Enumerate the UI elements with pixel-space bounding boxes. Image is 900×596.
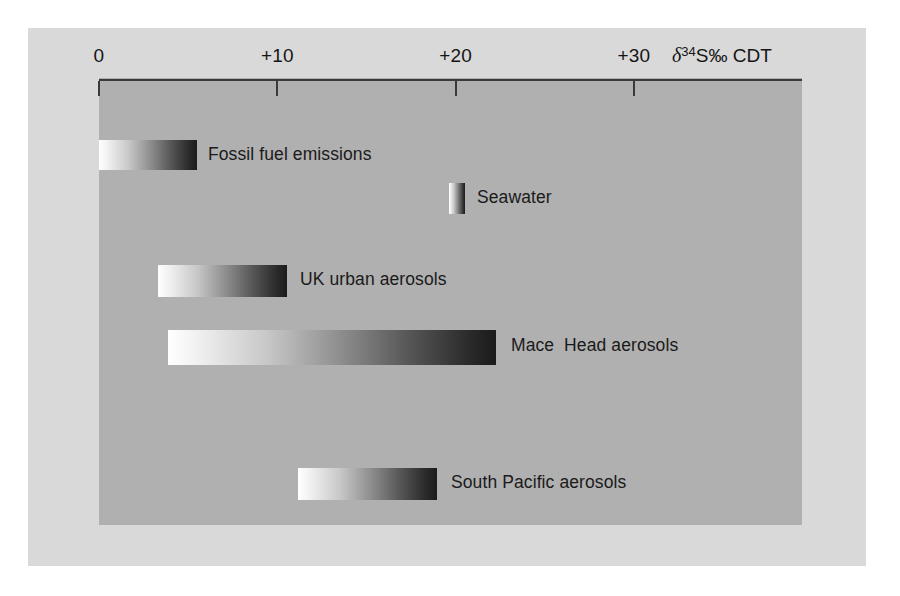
- delta-superscript: 34: [681, 44, 695, 59]
- bar-fossil-fuel-emissions: [99, 140, 197, 170]
- bar-label-fossil-fuel-emissions: Fossil fuel emissions: [208, 144, 372, 165]
- x-axis-tick-plus20: [455, 81, 457, 96]
- x-axis-tick-0: [98, 81, 100, 96]
- bar-mace-head-aerosols: [168, 330, 496, 365]
- bar-label-south-pacific-aerosols: South Pacific aerosols: [451, 472, 626, 493]
- x-axis-line: [99, 79, 802, 81]
- bar-label-mace-head-aerosols: Mace Head aerosols: [511, 335, 678, 356]
- x-axis-tick-plus10: [276, 81, 278, 96]
- delta-symbol: δ: [672, 44, 681, 66]
- x-axis-tick-label-plus10: +10: [261, 45, 294, 67]
- bar-label-uk-urban-aerosols: UK urban aerosols: [300, 269, 447, 290]
- x-axis-tick-label-plus20: +20: [439, 45, 472, 67]
- bar-seawater: [449, 183, 465, 214]
- delta-unit-rest: S‰ CDT: [696, 45, 772, 66]
- x-axis-tick-label-plus30: +30: [617, 45, 650, 67]
- plot-area: [99, 78, 802, 525]
- x-axis-tick-label-0: 0: [94, 45, 105, 67]
- bar-label-seawater: Seawater: [477, 187, 552, 208]
- bar-south-pacific-aerosols: [298, 468, 437, 500]
- x-axis-tick-plus30: [633, 81, 635, 96]
- figure-root: 0+10+20+30 δ34S‰ CDT Fossil fuel emissio…: [0, 0, 900, 596]
- bar-uk-urban-aerosols: [158, 265, 287, 297]
- x-axis-unit-label: δ34S‰ CDT: [672, 44, 772, 67]
